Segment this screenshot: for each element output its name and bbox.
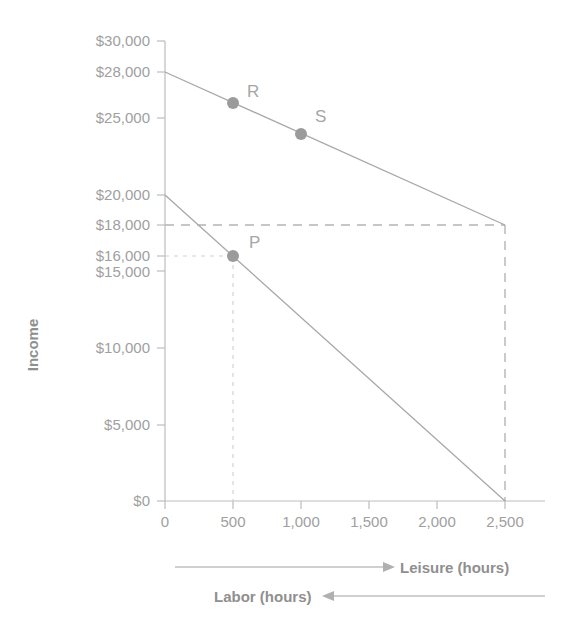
labor-arrow-head-icon [322,591,334,601]
data-point-label-P: P [249,233,260,252]
x-tick-label-1000: 1,000 [282,513,320,530]
x-tick-label-1500: 1,500 [350,513,388,530]
y-tick-label-30000: $30,000 [96,32,150,49]
y-tick-label-25000: $25,000 [96,109,150,126]
y-tick-label-10000: $10,000 [96,339,150,356]
y-tick-label-0: $0 [133,492,150,509]
y-tick-label-28000: $28,000 [96,63,150,80]
y-tick-label-18000: $18,000 [96,216,150,233]
x-axis-title-labor: Labor (hours) [214,588,312,605]
data-point-R [227,97,239,109]
y-tick-label-16000: $16,000 [96,247,150,264]
budget-constraint-chart: $30,000 $28,000 $25,000 $20,000 $18,000 … [0,0,578,617]
data-point-P [227,250,239,262]
data-point-label-S: S [315,107,326,126]
x-tick-label-0: 0 [161,513,169,530]
upper-budget-line [165,72,505,225]
x-tick-label-500: 500 [220,513,245,530]
data-point-label-R: R [247,82,259,101]
x-tick-label-2000: 2,000 [418,513,456,530]
chart-canvas: $30,000 $28,000 $25,000 $20,000 $18,000 … [0,0,578,617]
y-tick-label-20000: $20,000 [96,186,150,203]
y-tick-label-15000: $15,000 [96,263,150,280]
x-tick-label-2500: 2,500 [486,513,524,530]
y-axis-ticks [157,41,165,501]
x-axis-title-leisure: Leisure (hours) [400,559,509,576]
y-axis-title: Income [24,319,41,372]
y-tick-label-5000: $5,000 [104,416,150,433]
x-axis-ticks [165,501,505,509]
lower-budget-line [165,195,505,501]
leisure-arrow-head-icon [383,562,395,572]
data-point-S [295,128,307,140]
